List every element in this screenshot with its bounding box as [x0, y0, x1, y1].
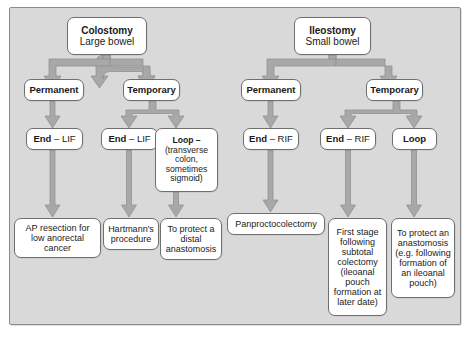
colostomy-temporary-end-label: End [108, 133, 126, 144]
colostomy-temporary-end-suffix: – LIF [129, 133, 151, 144]
node-colostomy-permanent[interactable]: Permanent [24, 79, 84, 101]
node-colostomy-temporary-loop[interactable]: Loop – (transverse colon, sometimes sigm… [155, 128, 218, 192]
node-ileostomy-permanent-end[interactable]: End – RIF [243, 128, 299, 150]
ileostomy-permanent-label: Permanent [245, 85, 297, 96]
node-ileostomy-permanent[interactable]: Permanent [241, 79, 301, 101]
ileostomy-subtitle: Small bowel [306, 36, 360, 47]
node-outcome-first-stage[interactable]: First stage following subtotal colectomy… [328, 218, 387, 316]
node-colostomy-temporary-end[interactable]: End – LIF [101, 128, 158, 150]
colostomy-temporary-loop-label: Loop – [172, 135, 200, 145]
outcome-first-stage-text: First stage following subtotal colectomy… [332, 227, 383, 308]
outcome-panproctocolectomy-text: Panproctocolectomy [231, 219, 321, 229]
node-outcome-protect-anastomosis[interactable]: To protect an anastomosis (e.g. followin… [391, 218, 455, 298]
node-ileostomy-temporary-end[interactable]: End – RIF [320, 128, 376, 150]
node-outcome-hartmanns[interactable]: Hartmann's procedure [103, 218, 159, 250]
outcome-hartmanns-text: Hartmann's procedure [107, 224, 155, 244]
colostomy-title: Colostomy [81, 25, 133, 36]
colostomy-permanent-label: Permanent [28, 85, 80, 96]
node-outcome-panproctocolectomy[interactable]: Panproctocolectomy [227, 213, 325, 235]
colostomy-temporary-label: Temporary [127, 85, 176, 96]
colostomy-permanent-end-suffix: – LIF [54, 133, 76, 144]
ileostomy-temporary-loop-label: Loop [396, 134, 433, 145]
node-colostomy-permanent-end[interactable]: End – LIF [26, 128, 83, 150]
node-ileostomy[interactable]: Ileostomy Small bowel [294, 17, 371, 55]
node-ileostomy-temporary[interactable]: Temporary [366, 79, 423, 101]
outcome-protect-distal-text: To protect a distal anastomosis [164, 224, 218, 254]
ileostomy-temporary-end-suffix: – RIF [347, 133, 370, 144]
ileostomy-temporary-end-label: End [326, 133, 344, 144]
outcome-protect-anastomosis-text: To protect an anastomosis (e.g. followin… [395, 228, 451, 288]
outcome-ap-resection-text: AP resection for low anorectal cancer [18, 223, 97, 253]
ileostomy-permanent-end-label: End [249, 133, 267, 144]
colostomy-subtitle: Large bowel [80, 36, 134, 47]
colostomy-permanent-end-label: End [33, 133, 51, 144]
ileostomy-temporary-label: Temporary [370, 85, 419, 96]
node-outcome-ap-resection[interactable]: AP resection for low anorectal cancer [14, 218, 101, 258]
ileostomy-permanent-end-suffix: – RIF [270, 133, 293, 144]
node-outcome-protect-distal[interactable]: To protect a distal anastomosis [160, 218, 222, 260]
colostomy-temporary-loop-detail: (transverse colon, sometimes sigmoid) [165, 145, 208, 184]
node-ileostomy-temporary-loop[interactable]: Loop [392, 128, 437, 150]
node-colostomy-temporary[interactable]: Temporary [123, 79, 180, 101]
node-colostomy[interactable]: Colostomy Large bowel [67, 17, 147, 55]
ileostomy-title: Ileostomy [309, 25, 356, 36]
diagram-canvas: Colostomy Large bowel Ileostomy Small bo… [0, 0, 474, 340]
